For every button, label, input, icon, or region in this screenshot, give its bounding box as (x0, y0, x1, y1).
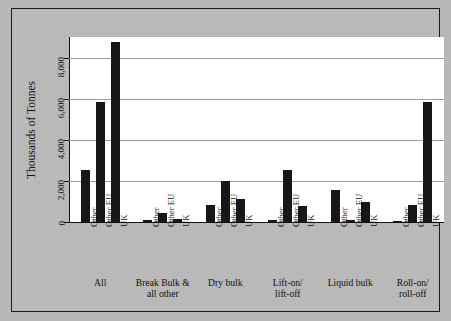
x-axis-group-label-line1: All (69, 277, 132, 288)
x-axis-group-label-line1: Liquid bulk (319, 277, 382, 288)
gridline (69, 181, 444, 182)
x-axis-group-label-line1: Lift-on/ (257, 277, 320, 288)
x-axis-group-label: All (69, 277, 132, 288)
y-axis-tick (64, 140, 69, 141)
chart-frame-border: Thousands of Tonnes 02,0004,0006,0008,00… (11, 8, 440, 312)
gridline (69, 140, 444, 141)
y-axis-tick (64, 58, 69, 59)
x-axis-group-label: Roll-on/roll-off (382, 277, 445, 299)
gridline (69, 99, 444, 100)
x-axis-category-label: UK (306, 215, 316, 227)
x-axis-group-label-line2: all other (132, 288, 195, 299)
y-axis-tick-label-text: 2,000 (56, 180, 66, 200)
x-axis-category-label: UK (244, 215, 254, 227)
x-axis-category-label: UK (369, 215, 379, 227)
chart-figure: Thousands of Tonnes 02,0004,0006,0008,00… (0, 0, 451, 321)
x-axis-group-label: Break Bulk &all other (132, 277, 195, 299)
x-axis-category-label: UK (181, 215, 191, 227)
y-axis-tick-label-text: 6,000 (56, 98, 66, 118)
x-axis-group-label: Liquid bulk (319, 277, 382, 288)
gridline (69, 58, 444, 59)
y-axis-tick (64, 222, 69, 223)
x-axis-group-label-line1: Dry bulk (194, 277, 257, 288)
x-axis-group-label-line1: Roll-on/ (382, 277, 445, 288)
x-axis-group-label-line2: roll-off (382, 288, 445, 299)
x-axis-category-label: Other (401, 207, 411, 227)
x-axis-group-label: Dry bulk (194, 277, 257, 288)
y-axis-tick (64, 99, 69, 100)
x-axis-category-label: UK (119, 215, 129, 227)
y-axis-tick-label-text: 4,000 (56, 139, 66, 159)
x-axis-category-label: Other EU (291, 194, 301, 227)
x-axis-category-label: Other EU (416, 194, 426, 227)
y-axis-title: Thousands of Tonnes (25, 0, 45, 37)
y-axis-tick (64, 181, 69, 182)
x-axis-category-label: Other (214, 207, 224, 227)
x-axis-category-label: Other (276, 207, 286, 227)
x-axis-category-label: Other EU (229, 194, 239, 227)
x-axis-group-label-line1: Break Bulk & (132, 277, 195, 288)
x-axis-category-label: UK (431, 215, 441, 227)
x-axis-category-label: Other EU (104, 194, 114, 227)
y-axis-line (69, 37, 70, 223)
x-axis-category-label: Other EU (354, 194, 364, 227)
x-axis-group-labels: AllBreak Bulk &all otherDry bulkLift-on/… (69, 277, 444, 311)
y-axis-tick-labels: 02,0004,0006,0008,000 (12, 37, 69, 223)
x-axis-category-label: Other (339, 207, 349, 227)
x-axis-category-label: Other (151, 207, 161, 227)
x-axis-group-label: Lift-on/lift-off (257, 277, 320, 299)
x-axis-category-labels: OtherOther EUUKOtherOther EUUKOtherOther… (69, 225, 444, 275)
x-axis-category-label: Other EU (166, 194, 176, 227)
plot-area (69, 37, 444, 223)
x-axis-category-label: Other (89, 207, 99, 227)
y-axis-tick-label-text: 8,000 (56, 57, 66, 77)
x-axis-group-label-line2: lift-off (257, 288, 320, 299)
